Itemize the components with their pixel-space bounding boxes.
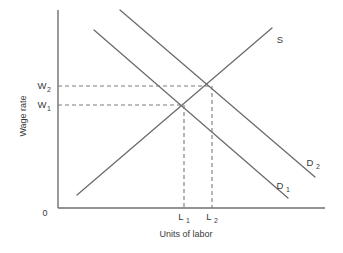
- labor-tick-l1: L 1: [178, 211, 190, 224]
- labor-tick-l1-base: L: [178, 211, 183, 222]
- demand-curve-2: [120, 10, 315, 177]
- supply-curve-label-base: S: [277, 34, 283, 45]
- demand-curve-2-label-base: D: [307, 157, 314, 168]
- wage-tick-w2: W 2: [38, 80, 52, 93]
- demand-curve-2-label: D 2: [307, 157, 320, 170]
- demand-curve-1-label: D 1: [277, 180, 290, 193]
- demand-curve-1-label-base: D: [277, 180, 284, 191]
- wage-tick-w1-subscript: 1: [47, 105, 51, 112]
- labor-tick-l1-subscript: 1: [186, 217, 190, 224]
- wage-tick-w2-subscript: 2: [47, 86, 51, 93]
- wage-tick-w2-base: W: [38, 80, 47, 91]
- x-axis-title: Units of labor: [159, 229, 212, 239]
- economics-diagram: 0 Wage rate Units of labor W 2 W 1 L 1 L…: [0, 0, 343, 253]
- diagram-canvas: 0 Wage rate Units of labor W 2 W 1 L 1 L…: [0, 0, 343, 253]
- wage-tick-w1-base: W: [38, 99, 47, 110]
- labor-tick-l2-base: L: [206, 211, 211, 222]
- supply-curve-label: S: [277, 34, 283, 45]
- supply-curve: [77, 28, 272, 195]
- demand-curve-1-label-subscript: 1: [286, 186, 290, 193]
- wage-tick-w1: W 1: [38, 99, 52, 112]
- origin-label: 0: [42, 208, 47, 218]
- labor-tick-l2: L 2: [206, 211, 218, 224]
- y-axis-title: Wage rate: [18, 95, 28, 136]
- labor-tick-l2-subscript: 2: [214, 217, 218, 224]
- demand-curve-1: [94, 30, 288, 198]
- demand-curve-2-label-subscript: 2: [316, 163, 320, 170]
